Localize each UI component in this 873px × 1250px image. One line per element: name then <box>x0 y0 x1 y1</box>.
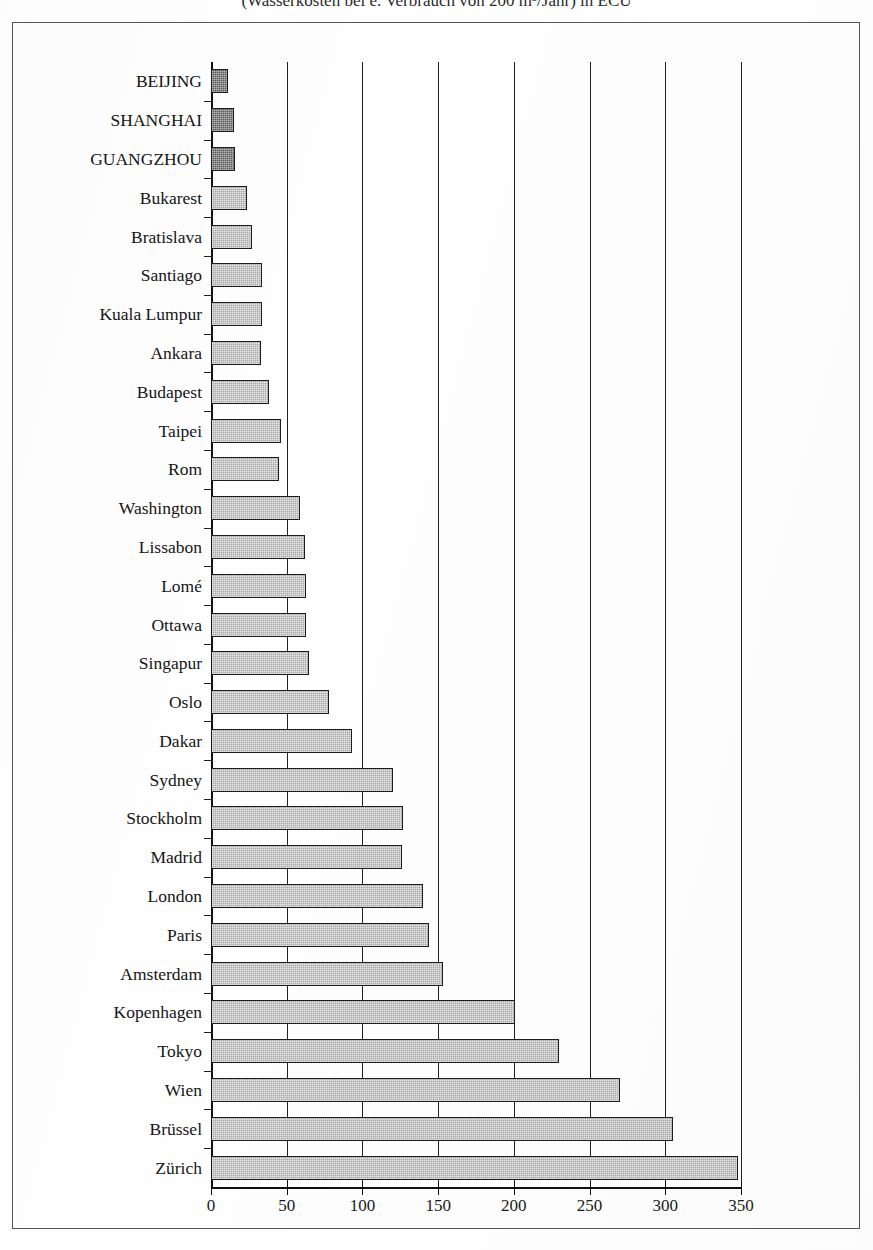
bar[interactable] <box>211 1078 620 1102</box>
bar-row[interactable]: Santiago <box>0 263 873 287</box>
bar[interactable] <box>211 108 234 132</box>
bar-row[interactable]: Kopenhagen <box>0 1000 873 1024</box>
bar-row[interactable]: Lomé <box>0 574 873 598</box>
bar-row[interactable]: Sydney <box>0 768 873 792</box>
bar[interactable] <box>211 845 402 869</box>
bar[interactable] <box>211 380 269 404</box>
x-tick-label: 200 <box>484 1196 544 1216</box>
category-label: Paris <box>2 925 202 945</box>
y-tick-mark <box>204 915 213 916</box>
category-label: Santiago <box>2 265 202 285</box>
bar[interactable] <box>211 574 306 598</box>
category-label-wrap: GUANGZHOU <box>0 147 202 171</box>
bar-row[interactable]: Budapest <box>0 380 873 404</box>
bar[interactable] <box>211 1117 673 1141</box>
bar[interactable] <box>211 419 281 443</box>
bar-row[interactable]: Madrid <box>0 845 873 869</box>
category-label-wrap: Zürich <box>0 1156 202 1180</box>
category-label: Tokyo <box>2 1041 202 1061</box>
bar[interactable] <box>211 457 279 481</box>
bar[interactable] <box>211 1039 559 1063</box>
bar-row[interactable]: Amsterdam <box>0 962 873 986</box>
bar-row[interactable]: Ottawa <box>0 613 873 637</box>
category-label-wrap: London <box>0 884 202 908</box>
y-tick-mark <box>204 256 213 257</box>
bar-row[interactable]: Stockholm <box>0 806 873 830</box>
bar[interactable] <box>211 69 228 93</box>
category-label-wrap: Sydney <box>0 768 202 792</box>
bar-row[interactable]: Bukarest <box>0 186 873 210</box>
bar-row[interactable]: Wien <box>0 1078 873 1102</box>
bar[interactable] <box>211 729 352 753</box>
x-tick-mark-100 <box>362 1181 363 1195</box>
bar[interactable] <box>211 341 261 365</box>
category-label-wrap: Kopenhagen <box>0 1000 202 1024</box>
y-tick-mark <box>204 877 213 878</box>
bar[interactable] <box>211 690 329 714</box>
bar[interactable] <box>211 302 262 326</box>
x-tick-label: 250 <box>560 1196 620 1216</box>
bar-row[interactable]: Paris <box>0 923 873 947</box>
bar-row[interactable]: London <box>0 884 873 908</box>
bar[interactable] <box>211 884 423 908</box>
y-tick-mark <box>204 760 213 761</box>
bar[interactable] <box>211 923 429 947</box>
bar[interactable] <box>211 768 393 792</box>
category-label-wrap: Bukarest <box>0 186 202 210</box>
bar[interactable] <box>211 613 306 637</box>
bar[interactable] <box>211 147 235 171</box>
bar-row[interactable]: Ankara <box>0 341 873 365</box>
category-label-wrap: Lomé <box>0 574 202 598</box>
category-label: Ankara <box>2 343 202 363</box>
bar-row[interactable]: Oslo <box>0 690 873 714</box>
bar[interactable] <box>211 263 262 287</box>
y-tick-mark <box>204 411 213 412</box>
bar[interactable] <box>211 225 252 249</box>
bar-row[interactable]: Rom <box>0 457 873 481</box>
y-tick-mark <box>204 954 213 955</box>
bar-row[interactable]: Brüssel <box>0 1117 873 1141</box>
bar[interactable] <box>211 962 443 986</box>
category-label: Lissabon <box>2 537 202 557</box>
category-label: Budapest <box>2 382 202 402</box>
category-label-wrap: Ankara <box>0 341 202 365</box>
bar-row[interactable]: Dakar <box>0 729 873 753</box>
category-axis-line <box>211 1187 741 1189</box>
bar[interactable] <box>211 1156 738 1180</box>
bar[interactable] <box>211 1000 515 1024</box>
bar-row[interactable]: SHANGHAI <box>0 108 873 132</box>
bar[interactable] <box>211 535 305 559</box>
bar-row[interactable]: Kuala Lumpur <box>0 302 873 326</box>
bar-row[interactable]: Lissabon <box>0 535 873 559</box>
y-tick-mark <box>204 372 213 373</box>
bar[interactable] <box>211 651 309 675</box>
bar[interactable] <box>211 496 300 520</box>
x-tick-label: 100 <box>332 1196 392 1216</box>
category-label-wrap: Rom <box>0 457 202 481</box>
category-label-wrap: Brüssel <box>0 1117 202 1141</box>
category-label: Stockholm <box>2 808 202 828</box>
y-tick-mark <box>204 295 213 296</box>
bar-row[interactable]: BEIJING <box>0 69 873 93</box>
category-label: Amsterdam <box>2 964 202 984</box>
bar-row[interactable]: Taipei <box>0 419 873 443</box>
x-tick-mark-50 <box>287 1181 288 1195</box>
y-tick-mark <box>204 217 213 218</box>
bar-row[interactable]: Washington <box>0 496 873 520</box>
category-label: Taipei <box>2 421 202 441</box>
bar[interactable] <box>211 186 247 210</box>
category-label: Madrid <box>2 847 202 867</box>
category-label-wrap: Madrid <box>0 845 202 869</box>
bar[interactable] <box>211 806 403 830</box>
bar-row[interactable]: Zürich <box>0 1156 873 1180</box>
bar-row[interactable]: Singapur <box>0 651 873 675</box>
bar-row[interactable]: Bratislava <box>0 225 873 249</box>
category-label: Zürich <box>2 1158 202 1178</box>
y-tick-mark <box>204 334 213 335</box>
bar-row[interactable]: Tokyo <box>0 1039 873 1063</box>
bar-row[interactable]: GUANGZHOU <box>0 147 873 171</box>
y-tick-mark <box>204 644 213 645</box>
y-tick-mark <box>204 799 213 800</box>
category-label-wrap: Budapest <box>0 380 202 404</box>
category-label-wrap: Ottawa <box>0 613 202 637</box>
